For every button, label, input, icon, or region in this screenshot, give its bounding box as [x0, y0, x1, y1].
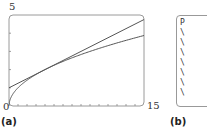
plot-line: P [180, 18, 185, 27]
calc-row: \ [180, 68, 185, 77]
calc-row: \ [180, 48, 185, 57]
calc-row: \ [180, 88, 185, 97]
caption-a: (a) [1, 116, 17, 127]
axis-ticks [9, 33, 135, 106]
calculator-screen-b: P \ \ \ \ \ \ \ [176, 15, 207, 107]
calc-row: \ [180, 58, 185, 67]
calc-row: \ [180, 28, 185, 37]
y-max-label: 5 [9, 2, 15, 12]
caption-b: (b) [170, 116, 186, 127]
y-min-label: 0 [3, 102, 9, 112]
plot-frame [9, 15, 144, 106]
sqrt-curve [9, 36, 144, 106]
x-max-label: 15 [147, 101, 160, 111]
tangent-line [9, 20, 144, 88]
calc-row: \ [180, 38, 185, 47]
calc-row: \ [180, 78, 185, 87]
